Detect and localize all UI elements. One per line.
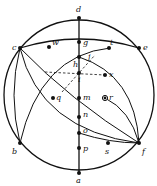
label-r: r: [109, 93, 114, 102]
arc-r-f: [105, 98, 139, 143]
point-e: [137, 46, 141, 50]
point-o: [77, 131, 81, 135]
label-p: p: [83, 144, 88, 153]
point-m: [77, 96, 81, 100]
labels: d g h i m n o p a c w t e x q r b s f j: [12, 5, 148, 185]
label-h: h: [73, 60, 78, 69]
label-c: c: [12, 43, 17, 52]
label-x: x: [109, 70, 114, 79]
point-s: [106, 141, 110, 145]
point-a: [77, 171, 81, 175]
label-i: i: [78, 75, 81, 84]
arc-b-h: [20, 48, 110, 143]
projection-diagram: d g h i m n o p a c w t e x q r b s f j: [0, 0, 157, 186]
label-b: b: [12, 147, 17, 156]
label-e: e: [143, 43, 148, 52]
point-w: [47, 45, 51, 49]
point-c: [18, 46, 22, 50]
point-p: [77, 146, 81, 150]
label-s: s: [105, 147, 109, 156]
point-d: [77, 16, 81, 20]
point-n: [77, 115, 81, 119]
label-g: g: [83, 38, 88, 47]
label-w: w: [52, 38, 59, 47]
point-x: [103, 73, 107, 77]
point-b: [18, 141, 22, 145]
label-a: a: [76, 176, 81, 185]
point-r: [104, 97, 107, 100]
point-h: [77, 55, 81, 59]
point-f: [137, 141, 141, 145]
point-q: [51, 96, 55, 100]
label-q: q: [56, 93, 61, 102]
label-m: m: [83, 93, 91, 102]
point-g: [77, 40, 81, 44]
label-f: f: [141, 147, 147, 156]
label-n: n: [83, 110, 88, 119]
label-o: o: [83, 126, 88, 135]
label-d: d: [76, 5, 81, 14]
arc-c-b: [14, 48, 20, 143]
